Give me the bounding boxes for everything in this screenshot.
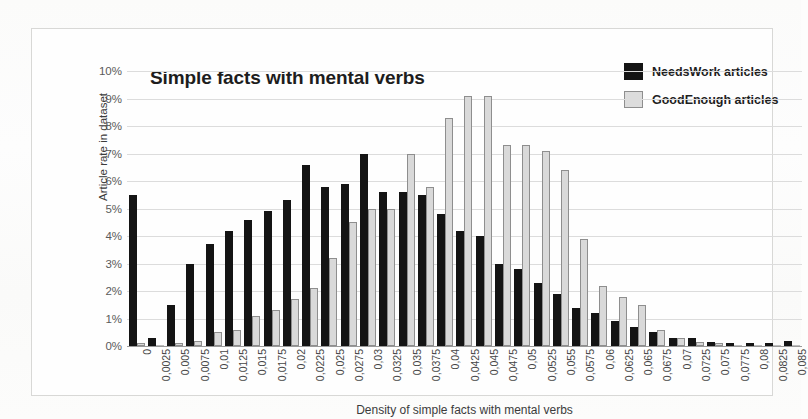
x-tick-20: 0,05: [526, 349, 538, 369]
y-tick-1pct: 1%: [82, 313, 122, 325]
x-tick-5: 0,0125: [237, 349, 249, 381]
bar-goodenough: [349, 222, 357, 346]
bar-needswork: [225, 231, 233, 347]
bar-needswork: [649, 332, 657, 346]
x-tick-12: 0,03: [372, 349, 384, 369]
bar-goodenough: [734, 345, 742, 346]
bar-group: [476, 71, 492, 346]
x-tick-22: 0,055: [565, 349, 577, 375]
x-tick-25: 0,0625: [623, 349, 635, 381]
bar-group: [283, 71, 299, 346]
bar-group: [244, 71, 260, 346]
bar-goodenough: [252, 316, 260, 346]
bar-needswork: [167, 305, 175, 346]
bar-group: [669, 71, 685, 346]
bar-goodenough: [426, 187, 434, 347]
x-tick-24: 0,06: [604, 349, 616, 369]
bar-group: [341, 71, 357, 346]
gridline-0pct: [127, 346, 802, 347]
x-tick-21: 0,0525: [546, 349, 558, 381]
x-tick-8: 0,02: [295, 349, 307, 369]
bar-needswork: [591, 313, 599, 346]
bar-needswork: [283, 200, 291, 346]
bar-goodenough: [792, 345, 800, 346]
bar-goodenough: [137, 343, 145, 346]
bar-needswork: [418, 195, 426, 346]
bar-goodenough: [445, 118, 453, 346]
bar-needswork: [630, 327, 638, 346]
x-tick-7: 0,0175: [276, 349, 288, 381]
bar-goodenough: [464, 96, 472, 346]
x-tick-33: 0,0825: [777, 349, 789, 381]
bar-needswork: [186, 264, 194, 347]
x-tick-32: 0,08: [758, 349, 770, 369]
bar-goodenough: [310, 288, 318, 346]
bar-group: [379, 71, 395, 346]
bar-needswork: [765, 343, 773, 346]
x-tick-0: 0: [141, 349, 153, 355]
bar-needswork: [611, 321, 619, 346]
x-tick-30: 0,075: [719, 349, 731, 375]
bar-goodenough: [194, 341, 202, 347]
bar-needswork: [456, 231, 464, 347]
bar-goodenough: [677, 338, 685, 346]
bar-needswork: [360, 154, 368, 347]
bar-needswork: [495, 264, 503, 347]
bar-goodenough: [214, 332, 222, 346]
bar-group: [360, 71, 376, 346]
bar-group: [688, 71, 704, 346]
bar-needswork: [399, 192, 407, 346]
bar-goodenough: [773, 345, 781, 346]
x-tick-3: 0,0075: [199, 349, 211, 381]
bar-group: [418, 71, 434, 346]
bar-needswork: [784, 341, 792, 347]
bar-needswork: [302, 165, 310, 347]
bar-group: [437, 71, 453, 346]
bar-group: [611, 71, 627, 346]
x-tick-2: 0,005: [179, 349, 191, 375]
x-tick-23: 0,0575: [584, 349, 596, 381]
bar-group: [630, 71, 646, 346]
bar-goodenough: [387, 209, 395, 347]
bar-needswork: [572, 308, 580, 347]
bar-group: [591, 71, 607, 346]
bar-needswork: [707, 342, 715, 346]
x-tick-26: 0,065: [642, 349, 654, 375]
bar-goodenough: [580, 239, 588, 346]
y-tick-3pct: 3%: [82, 258, 122, 270]
bar-needswork: [379, 192, 387, 346]
bar-needswork: [553, 294, 561, 346]
x-tick-16: 0,04: [449, 349, 461, 369]
x-tick-11: 0,0275: [353, 349, 365, 381]
bar-needswork: [129, 195, 137, 346]
x-tick-6: 0,015: [256, 349, 268, 375]
chart-frame: Simple facts with mental verbs NeedsWork…: [31, 28, 773, 396]
bar-group: [302, 71, 318, 346]
bar-group: [572, 71, 588, 346]
bar-group: [399, 71, 415, 346]
bar-goodenough: [291, 299, 299, 346]
x-tick-18: 0,045: [488, 349, 500, 375]
plot-area: [127, 71, 802, 346]
bar-goodenough: [156, 345, 164, 346]
bar-needswork: [437, 214, 445, 346]
bar-needswork: [321, 187, 329, 347]
bar-group: [707, 71, 723, 346]
bar-needswork: [244, 220, 252, 347]
x-tick-13: 0,0325: [391, 349, 403, 381]
bar-group: [148, 71, 164, 346]
bar-needswork: [476, 236, 484, 346]
bar-needswork: [206, 244, 214, 346]
x-tick-14: 0,035: [411, 349, 423, 375]
bar-needswork: [264, 211, 272, 346]
x-tick-1: 0,0025: [160, 349, 172, 381]
bar-needswork: [341, 184, 349, 346]
x-tick-28: 0,07: [681, 349, 693, 369]
bar-group: [225, 71, 241, 346]
x-tick-10: 0,025: [334, 349, 346, 375]
x-tick-34: 0,085: [796, 349, 808, 375]
bar-group: [321, 71, 337, 346]
bar-goodenough: [233, 330, 241, 347]
bar-group: [726, 71, 742, 346]
x-tick-29: 0,0725: [700, 349, 712, 381]
